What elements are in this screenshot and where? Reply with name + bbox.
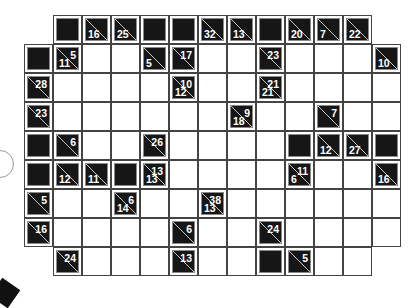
across-sum-clue: 6 <box>128 195 134 206</box>
across-sum-clue: 23 <box>267 50 279 61</box>
entry-cell-r4-c2[interactable] <box>82 131 111 160</box>
across-sum-clue: 7 <box>331 108 337 119</box>
clue-fill: 6 <box>172 221 195 244</box>
entry-cell-r1-c11[interactable] <box>343 44 372 73</box>
clue-cell-r0-c11: 22 <box>343 15 372 44</box>
clue-cell-r4-c4: 26 <box>140 131 169 160</box>
clue-fill: 7 <box>317 18 340 41</box>
entry-cell-r7-c2[interactable] <box>82 218 111 247</box>
entry-cell-r4-c8[interactable] <box>256 131 285 160</box>
entry-cell-r7-c11[interactable] <box>343 218 372 247</box>
entry-cell-r8-c6[interactable] <box>198 247 227 276</box>
clue-fill: 23 <box>27 105 50 128</box>
down-sum-clue: 5 <box>146 58 152 69</box>
entry-cell-r1-c7[interactable] <box>227 44 256 73</box>
entry-cell-r3-c6[interactable] <box>198 102 227 131</box>
entry-cell-r1-c10[interactable] <box>314 44 343 73</box>
clue-cell-r6-c0: 5 <box>24 189 53 218</box>
entry-cell-r8-c3[interactable] <box>111 247 140 276</box>
entry-cell-r7-c6[interactable] <box>198 218 227 247</box>
entry-cell-r3-c3[interactable] <box>111 102 140 131</box>
entry-cell-r8-c7[interactable] <box>227 247 256 276</box>
entry-cell-r5-c5[interactable] <box>169 160 198 189</box>
entry-cell-r2-c7[interactable] <box>227 73 256 102</box>
clue-cell-r4-c1: 6 <box>53 131 82 160</box>
entry-cell-r6-c10[interactable] <box>314 189 343 218</box>
clue-fill: 11 <box>85 163 108 186</box>
entry-cell-r8-c10[interactable] <box>314 247 343 276</box>
clue-fill: 13 <box>230 18 253 41</box>
entry-cell-r6-c7[interactable] <box>227 189 256 218</box>
entry-cell-r1-c2[interactable] <box>82 44 111 73</box>
clue-fill: 7 <box>317 105 340 128</box>
down-sum-clue: 7 <box>320 29 326 40</box>
entry-cell-r7-c3[interactable] <box>111 218 140 247</box>
entry-cell-r7-c9[interactable] <box>285 218 314 247</box>
entry-cell-r3-c8[interactable] <box>256 102 285 131</box>
entry-cell-r5-c7[interactable] <box>227 160 256 189</box>
entry-cell-r1-c3[interactable] <box>111 44 140 73</box>
entry-cell-r7-c10[interactable] <box>314 218 343 247</box>
entry-cell-r5-c10[interactable] <box>314 160 343 189</box>
entry-cell-r2-c6[interactable] <box>198 73 227 102</box>
entry-cell-r2-c2[interactable] <box>82 73 111 102</box>
block-cell-r1-c0 <box>24 44 53 73</box>
clue-cell-r2-c0: 28 <box>24 73 53 102</box>
entry-cell-r1-c6[interactable] <box>198 44 227 73</box>
entry-cell-r7-c7[interactable] <box>227 218 256 247</box>
entry-cell-r3-c2[interactable] <box>82 102 111 131</box>
entry-cell-r1-c9[interactable] <box>285 44 314 73</box>
entry-cell-r3-c4[interactable] <box>140 102 169 131</box>
entry-cell-r7-c4[interactable] <box>140 218 169 247</box>
entry-cell-r6-c12[interactable] <box>372 189 401 218</box>
entry-cell-r2-c11[interactable] <box>343 73 372 102</box>
clue-cell-r0-c9: 20 <box>285 15 314 44</box>
clue-cell-r0-c10: 7 <box>314 15 343 44</box>
down-sum-clue: 22 <box>349 29 361 40</box>
clue-fill: 511 <box>56 47 79 70</box>
down-sum-clue: 12 <box>320 145 332 156</box>
entry-cell-r4-c6[interactable] <box>198 131 227 160</box>
entry-cell-r2-c3[interactable] <box>111 73 140 102</box>
entry-cell-r8-c4[interactable] <box>140 247 169 276</box>
clue-fill: 20 <box>288 18 311 41</box>
clue-fill: 28 <box>27 76 50 99</box>
entry-cell-r2-c1[interactable] <box>53 73 82 102</box>
clue-cell-r0-c6: 32 <box>198 15 227 44</box>
across-sum-clue: 28 <box>35 79 47 90</box>
entry-cell-r4-c5[interactable] <box>169 131 198 160</box>
clue-cell-r7-c8: 24 <box>256 218 285 247</box>
entry-cell-r8-c11[interactable] <box>343 247 372 276</box>
clue-fill: 12 <box>56 163 79 186</box>
clue-cell-r0-c3: 25 <box>111 15 140 44</box>
entry-cell-r6-c8[interactable] <box>256 189 285 218</box>
entry-cell-r6-c1[interactable] <box>53 189 82 218</box>
entry-cell-r8-c2[interactable] <box>82 247 111 276</box>
block-cell-r0-c1 <box>53 15 82 44</box>
entry-cell-r7-c12[interactable] <box>372 218 401 247</box>
entry-cell-r5-c6[interactable] <box>198 160 227 189</box>
entry-cell-r2-c4[interactable] <box>140 73 169 102</box>
entry-cell-r5-c11[interactable] <box>343 160 372 189</box>
entry-cell-r2-c10[interactable] <box>314 73 343 102</box>
entry-cell-r3-c1[interactable] <box>53 102 82 131</box>
entry-cell-r4-c3[interactable] <box>111 131 140 160</box>
entry-cell-r2-c9[interactable] <box>285 73 314 102</box>
down-sum-clue: 21 <box>262 87 274 98</box>
entry-cell-r3-c5[interactable] <box>169 102 198 131</box>
entry-cell-r6-c9[interactable] <box>285 189 314 218</box>
clue-fill: 918 <box>230 105 253 128</box>
entry-cell-r3-c12[interactable] <box>372 102 401 131</box>
entry-cell-r2-c12[interactable] <box>372 73 401 102</box>
entry-cell-r3-c9[interactable] <box>285 102 314 131</box>
entry-cell-r3-c11[interactable] <box>343 102 372 131</box>
entry-cell-r6-c11[interactable] <box>343 189 372 218</box>
clue-cell-r3-c7: 918 <box>227 102 256 131</box>
entry-cell-r4-c7[interactable] <box>227 131 256 160</box>
entry-cell-r6-c4[interactable] <box>140 189 169 218</box>
entry-cell-r5-c8[interactable] <box>256 160 285 189</box>
entry-cell-r7-c1[interactable] <box>53 218 82 247</box>
entry-cell-r6-c5[interactable] <box>169 189 198 218</box>
entry-cell-r6-c2[interactable] <box>82 189 111 218</box>
block-fill <box>27 47 50 70</box>
